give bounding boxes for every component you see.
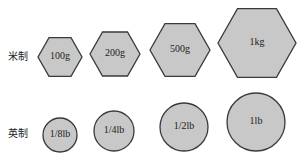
row-label-metric: 米制 bbox=[8, 50, 28, 62]
weight-comparison-diagram: 米制 英制 100g200g500g1kg1/8lb1/4lb1/2lb1lb bbox=[0, 0, 305, 165]
weight-label: 1/2lb bbox=[174, 120, 195, 131]
weight-label: 500g bbox=[170, 43, 190, 54]
weight-label: 1kg bbox=[250, 36, 265, 47]
weight-label: 1/8lb bbox=[50, 128, 71, 139]
row-label-imperial: 英制 bbox=[8, 127, 28, 139]
weight-label: 100g bbox=[50, 50, 70, 61]
weight-label: 1/4lb bbox=[104, 124, 125, 135]
weight-label: 200g bbox=[105, 47, 125, 58]
weight-label: 1lb bbox=[250, 115, 263, 126]
